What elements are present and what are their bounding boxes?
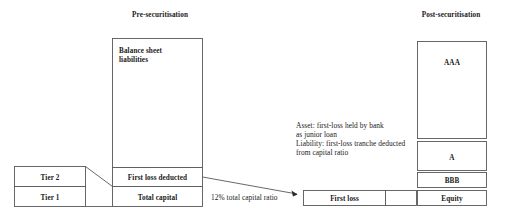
balance-sheet-label-line2: liabilities: [119, 56, 148, 64]
capital-ratio-caption: 12% total capital ratio: [211, 193, 278, 202]
total-capital-label: Total capital: [138, 194, 178, 202]
pre-securitisation-title: Pre-securitisation: [132, 11, 188, 19]
post-securitisation-title: Post-securitisation: [422, 11, 481, 19]
tranche-label-equity: Equity: [441, 195, 463, 203]
tier2-label: Tier 2: [41, 174, 60, 182]
center-note-line1: Asset: first-loss held by bank: [296, 121, 384, 130]
balance-sheet-label-line1: Balance sheet: [119, 47, 163, 55]
tier-to-capital-connector-upper: [86, 167, 113, 187]
first-loss-deducted-label: First loss deducted: [128, 174, 187, 182]
tranche-box-aaa: [418, 42, 487, 139]
center-note-line4: from capital ratio: [296, 148, 348, 157]
tranche-label-a: A: [449, 154, 455, 162]
first-loss-gap-box: [386, 191, 417, 206]
tranche-label-bbb: BBB: [445, 177, 460, 185]
center-note-line2: as junior loan: [296, 130, 337, 139]
securitisation-diagram: Pre-securitisation Balance sheet liabili…: [0, 0, 512, 212]
diagram-canvas: Pre-securitisation Balance sheet liabili…: [0, 0, 512, 212]
tier1-label: Tier 1: [41, 194, 60, 202]
first-loss-label: First loss: [330, 195, 359, 203]
center-note-line3: Liability: first-loss tranche deducted: [296, 139, 405, 148]
capital-ratio-arrow-line: [203, 177, 298, 194]
tranche-label-aaa: AAA: [444, 59, 461, 67]
